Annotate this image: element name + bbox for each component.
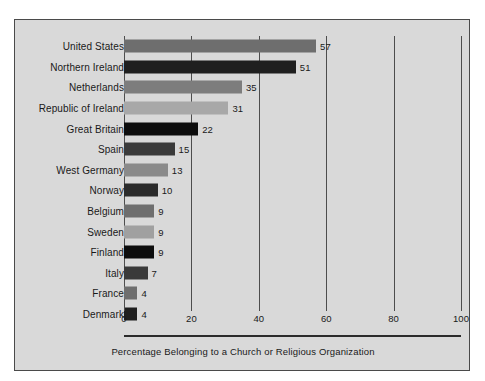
bar-and-value: 9 — [124, 246, 164, 259]
bar-row: Sweden9 — [15, 221, 471, 242]
bar-category-label: Republic of Ireland — [39, 103, 124, 114]
figure-panel: United States57Northern Ireland51Netherl… — [14, 19, 470, 371]
bar-category-label: Finland — [91, 247, 125, 258]
bar — [124, 246, 154, 259]
bar-category-label: France — [92, 288, 124, 299]
bar-value-label: 9 — [158, 226, 163, 237]
bar — [124, 40, 316, 53]
bar-category-label: Norway — [90, 185, 125, 196]
bar — [124, 81, 242, 94]
bar-row: Finland9 — [15, 242, 471, 263]
bar-and-value: 7 — [124, 266, 157, 279]
page-top-text-bleed: · · · · · · — [0, 0, 485, 13]
bar-and-value: 31 — [124, 102, 243, 115]
bar-value-label: 4 — [141, 288, 146, 299]
bar-and-value: 57 — [124, 40, 331, 53]
axis-baseline-rule — [124, 335, 461, 337]
bar-row: Italy7 — [15, 263, 471, 284]
bar-value-label: 9 — [158, 206, 163, 217]
bar-value-label: 15 — [179, 144, 190, 155]
bar-and-value: 35 — [124, 81, 257, 94]
x-tick-40 — [259, 304, 260, 311]
x-tick-80 — [394, 304, 395, 311]
bar — [124, 205, 154, 218]
bar-row: Netherlands35 — [15, 77, 471, 98]
bar — [124, 266, 148, 279]
bar-category-label: Belgium — [87, 206, 124, 217]
bar-and-value: 4 — [124, 308, 147, 321]
x-tick-label: 40 — [254, 313, 265, 324]
bar-and-value: 51 — [124, 60, 311, 73]
bar-and-value: 13 — [124, 163, 183, 176]
bar-category-label: Italy — [105, 267, 124, 278]
bar — [124, 122, 198, 135]
x-tick-20 — [191, 304, 192, 311]
bar-row: Norway10 — [15, 180, 471, 201]
bar-value-label: 9 — [158, 247, 163, 258]
bar-row: United States57 — [15, 36, 471, 57]
bar-row: West Germany13 — [15, 160, 471, 181]
bar-value-label: 13 — [172, 164, 183, 175]
bar — [124, 60, 296, 73]
bar-rows: United States57Northern Ireland51Netherl… — [15, 36, 471, 324]
bar-category-label: Spain — [98, 144, 124, 155]
bar-value-label: 31 — [232, 103, 243, 114]
bar-and-value: 4 — [124, 287, 147, 300]
x-axis-caption: Percentage Belonging to a Church or Reli… — [15, 346, 471, 357]
bar-row: Denmark4 — [15, 304, 471, 325]
bar-category-label: West Germany — [56, 164, 124, 175]
x-tick-100 — [461, 304, 462, 311]
bar-and-value: 22 — [124, 122, 213, 135]
bar-and-value: 10 — [124, 184, 172, 197]
bar — [124, 225, 154, 238]
bar-value-label: 7 — [152, 267, 157, 278]
bar-row: France4 — [15, 283, 471, 304]
bar — [124, 287, 137, 300]
bar-row: Great Britain22 — [15, 118, 471, 139]
bar — [124, 143, 175, 156]
bar-and-value: 15 — [124, 143, 189, 156]
bar-category-label: Northern Ireland — [50, 61, 124, 72]
bar-category-label: Sweden — [87, 226, 124, 237]
bar-and-value: 9 — [124, 205, 164, 218]
bar-value-label: 51 — [300, 61, 311, 72]
bar-value-label: 57 — [320, 41, 331, 52]
bar-category-label: Denmark — [83, 309, 124, 320]
bar-category-label: Netherlands — [69, 82, 124, 93]
bar-row: Spain15 — [15, 139, 471, 160]
bar-category-label: United States — [63, 41, 124, 52]
bar-and-value: 9 — [124, 225, 164, 238]
top-bleed-text: · · · · · · — [28, 0, 65, 4]
bar-row: Northern Ireland51 — [15, 57, 471, 78]
bar-row: Republic of Ireland31 — [15, 98, 471, 119]
bar-row: Belgium9 — [15, 201, 471, 222]
x-tick-60 — [326, 304, 327, 311]
bar-value-label: 10 — [162, 185, 173, 196]
x-tick-label: 60 — [321, 313, 332, 324]
bar — [124, 163, 168, 176]
x-tick-label: 0 — [121, 313, 126, 324]
bar-value-label: 22 — [202, 123, 213, 134]
x-tick-label: 80 — [388, 313, 399, 324]
bar — [124, 102, 228, 115]
bar-value-label: 4 — [141, 309, 146, 320]
x-tick-label: 100 — [453, 313, 469, 324]
bar — [124, 184, 158, 197]
x-tick-label: 20 — [186, 313, 197, 324]
bar-category-label: Great Britain — [67, 123, 124, 134]
bar-value-label: 35 — [246, 82, 257, 93]
x-tick-0 — [124, 304, 125, 311]
bar-chart-plot-area: United States57Northern Ireland51Netherl… — [15, 20, 471, 372]
